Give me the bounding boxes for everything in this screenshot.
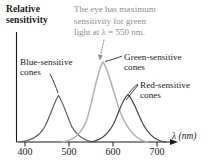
curve-red-sensitive-cones bbox=[90, 95, 166, 143]
y-axis-title-line1: Relative bbox=[6, 4, 48, 15]
label-green-line1: Green-sensitive bbox=[124, 52, 182, 62]
y-axis-title-line2: sensitivity bbox=[6, 15, 48, 26]
x-axis-ticks bbox=[25, 142, 157, 147]
label-green-sensitive-cones: Green-sensitive cones bbox=[124, 52, 182, 73]
y-axis-title: Relative sensitivity bbox=[6, 4, 48, 25]
callout-annotation: The eye has maximum sensitivity for gree… bbox=[74, 4, 156, 39]
curve-blue-sensitive-cones bbox=[20, 96, 95, 143]
label-red-line1: Red-sensitive bbox=[140, 80, 190, 90]
callout-line3: light at λ = 550 nm. bbox=[74, 27, 156, 39]
x-tick-label-500: 500 bbox=[54, 146, 84, 157]
x-tick-label-400: 400 bbox=[10, 146, 40, 157]
curve-green-sensitive-cones bbox=[62, 62, 148, 142]
callout-line1: The eye has maximum bbox=[74, 4, 156, 16]
x-tick-label-600: 600 bbox=[98, 146, 128, 157]
callout-line2: sensitivity for green bbox=[74, 16, 156, 28]
leader-line-red-lower bbox=[126, 85, 138, 100]
callout-arrow bbox=[101, 40, 105, 56]
callout-arrowhead bbox=[98, 55, 103, 61]
label-blue-line2: cones bbox=[20, 67, 73, 77]
x-tick-label-700: 700 bbox=[142, 146, 172, 157]
leader-line-green bbox=[105, 56, 122, 62]
label-red-line2: cones bbox=[140, 90, 190, 100]
label-green-line2: cones bbox=[124, 62, 182, 72]
label-blue-line1: Blue-sensitive bbox=[20, 57, 73, 67]
leader-line-red bbox=[129, 84, 138, 94]
x-axis-title: λ (nm) bbox=[172, 131, 196, 142]
label-blue-sensitive-cones: Blue-sensitive cones bbox=[20, 57, 73, 78]
cone-sensitivity-figure: Relative sensitivity The eye has maximum… bbox=[0, 0, 208, 166]
label-red-sensitive-cones: Red-sensitive cones bbox=[140, 80, 190, 101]
